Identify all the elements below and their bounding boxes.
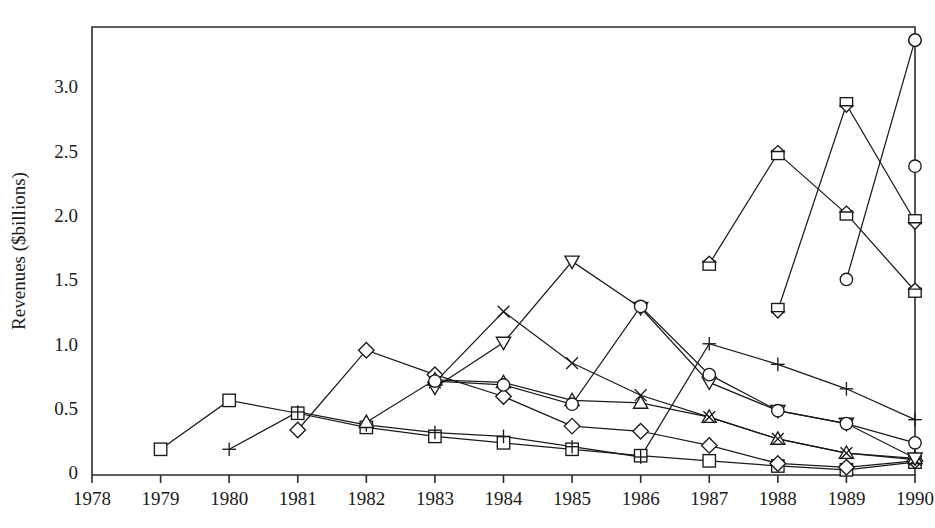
chart-container: 00.51.01.52.02.53.0 19781979198019811982… <box>0 0 935 528</box>
x-tick-label: 1986 <box>622 488 660 509</box>
series-triangle-up <box>366 380 915 458</box>
data-point-cross <box>566 357 578 369</box>
data-point-square-triangle-up <box>703 256 715 270</box>
data-point-square <box>703 455 715 467</box>
x-tick-label: 1987 <box>690 488 728 509</box>
data-point-triangle-down <box>496 337 510 349</box>
series-markers-triangle-down <box>428 256 922 465</box>
x-tick-label: 1981 <box>279 488 317 509</box>
axis-labels-layer: Revenues ($billions) <box>8 172 30 330</box>
data-point-circle <box>566 398 578 410</box>
data-point-triangle-up <box>634 396 648 408</box>
x-tick-label: 1984 <box>485 488 524 509</box>
y-tick-label: 0 <box>69 462 79 483</box>
x-tick-label: 1979 <box>142 488 180 509</box>
data-point-plus <box>222 442 236 456</box>
plot-frame <box>92 27 915 475</box>
y-tick-label: 3.0 <box>54 76 78 97</box>
data-point-square-triangle-down <box>772 304 784 319</box>
series-markers-diamond <box>290 342 923 475</box>
data-point-square-triangle-up <box>772 146 784 160</box>
data-point-circle <box>909 437 921 449</box>
data-point-square <box>223 394 235 406</box>
series-line <box>709 153 915 291</box>
y-tick-label: 0.5 <box>54 398 78 419</box>
data-point-plus <box>908 413 922 427</box>
data-point-diamond <box>564 418 580 434</box>
data-point-diamond <box>702 438 718 454</box>
data-point-circle <box>909 34 921 46</box>
series-markers-square <box>154 394 921 476</box>
series-markers-circle <box>429 300 921 449</box>
series-circle-high <box>846 40 915 279</box>
x-tick-label: 1988 <box>759 488 797 509</box>
y-tick-label: 2.0 <box>54 205 78 226</box>
plot-border <box>92 27 915 475</box>
data-point-square-triangle-down <box>840 98 852 113</box>
series-line <box>366 380 915 458</box>
data-point-circle <box>840 417 852 429</box>
data-point-circle <box>772 404 784 416</box>
x-tick-label: 1978 <box>73 488 111 509</box>
data-point-diamond <box>633 424 649 440</box>
x-tick-label: 1989 <box>827 488 865 509</box>
y-axis-ticks: 00.51.01.52.02.53.0 <box>54 76 78 483</box>
line-chart: 00.51.01.52.02.53.0 19781979198019811982… <box>0 0 935 528</box>
data-point-square-triangle-up <box>840 206 852 220</box>
x-tick-label: 1990 <box>896 488 934 509</box>
data-point-circle <box>497 379 509 391</box>
data-point-cross <box>498 306 510 318</box>
x-tick-label: 1980 <box>210 488 248 509</box>
y-tick-label: 2.5 <box>54 141 78 162</box>
y-tick-label: 1.0 <box>54 334 78 355</box>
data-point-circle <box>909 160 921 172</box>
data-point-square-triangle-down <box>909 215 921 230</box>
data-point-plus <box>702 337 716 351</box>
series-line <box>298 350 915 467</box>
x-tick-label: 1982 <box>347 488 385 509</box>
series-markers-circle-top <box>909 34 921 46</box>
data-point-circle <box>634 300 646 312</box>
series-line <box>846 40 915 279</box>
series-diamond <box>298 350 915 467</box>
x-tick-label: 1985 <box>553 488 591 509</box>
y-tick-label: 1.5 <box>54 269 78 290</box>
data-point-square <box>154 443 166 455</box>
data-point-circle <box>703 368 715 380</box>
series-markers-circle-second <box>909 160 921 172</box>
data-point-plus <box>771 358 785 372</box>
x-axis-ticks: 1978197919801981198219831984198519861987… <box>73 475 934 509</box>
data-point-circle <box>429 375 441 387</box>
data-point-circle <box>840 273 852 285</box>
data-point-plus <box>840 382 854 396</box>
x-tick-label: 1983 <box>416 488 454 509</box>
series-square-triangle-up <box>709 153 915 291</box>
series-layer <box>154 34 922 476</box>
y-axis-title: Revenues ($billions) <box>8 172 30 330</box>
